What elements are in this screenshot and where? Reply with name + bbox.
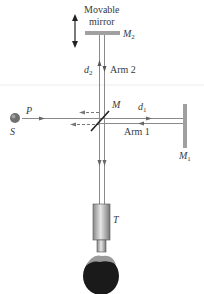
m1-label: M1 bbox=[179, 151, 191, 163]
down-arrow-icon bbox=[98, 160, 102, 166]
left-arrow-icon bbox=[70, 123, 76, 127]
t-label: T bbox=[113, 215, 119, 225]
double-arrow-icon bbox=[72, 14, 78, 48]
d1-label: d1 bbox=[138, 102, 147, 114]
movable-label: Movable bbox=[84, 5, 120, 15]
down-arrow-icon bbox=[103, 66, 107, 72]
arm2-label: Arm 2 bbox=[110, 65, 136, 75]
left-arrow-icon bbox=[79, 111, 85, 115]
p-label: P bbox=[26, 106, 32, 116]
d2-label: d2 bbox=[84, 65, 93, 77]
up-arrow-icon bbox=[98, 60, 102, 66]
arm1-label: Arm 1 bbox=[124, 127, 150, 137]
mirror-label: mirror bbox=[89, 17, 115, 27]
mirror-m2 bbox=[85, 31, 120, 35]
down-arrow-icon bbox=[103, 160, 107, 166]
right-arrow-icon bbox=[39, 117, 45, 121]
telescope bbox=[93, 204, 110, 252]
arm1-beams bbox=[22, 119, 185, 124]
left-arrow-icon bbox=[138, 122, 144, 126]
michelson-interferometer-diagram bbox=[0, 0, 204, 294]
mirror-m1 bbox=[183, 104, 187, 148]
beam-splitter-label: M bbox=[112, 100, 120, 110]
light-source bbox=[10, 113, 20, 123]
m2-label: M2 bbox=[123, 29, 135, 41]
right-arrow-icon bbox=[146, 117, 152, 121]
s-label: S bbox=[10, 127, 15, 137]
observer-head bbox=[83, 255, 119, 294]
